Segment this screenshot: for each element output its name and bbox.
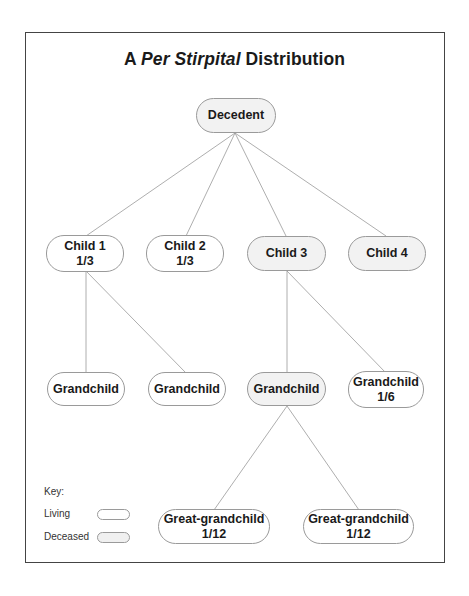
node-great-grandchild-1: Great-grandchild 1/12	[158, 509, 270, 544]
edge-grandchild3-ggc2	[287, 406, 359, 510]
node-child-3: Child 3	[247, 236, 326, 271]
node-label: Grandchild	[254, 382, 320, 397]
node-grandchild-4: Grandchild 1/6	[348, 371, 424, 408]
node-grandchild-3: Grandchild	[247, 372, 326, 406]
node-label: Grandchild	[53, 382, 119, 397]
edge-decedent-child3	[235, 133, 286, 236]
node-share: 1/6	[377, 390, 394, 405]
node-label: Grandchild	[353, 375, 419, 390]
node-decedent: Decedent	[196, 98, 276, 133]
edge-child1-grandchild2	[86, 271, 186, 373]
key-living-swatch	[97, 509, 130, 520]
node-label: Great-grandchild	[308, 512, 409, 527]
node-label: Decedent	[208, 108, 264, 123]
connector-lines	[0, 0, 469, 596]
node-label: Child 3	[266, 246, 308, 261]
key-living-label: Living	[44, 508, 70, 519]
node-share: 1/12	[346, 527, 370, 542]
node-share: 1/12	[202, 527, 226, 542]
node-label: Child 1	[64, 239, 106, 254]
node-share: 1/3	[176, 254, 193, 269]
node-label: Child 4	[366, 246, 408, 261]
edge-decedent-child4	[235, 133, 386, 236]
key-deceased-swatch	[97, 532, 130, 543]
node-label: Grandchild	[154, 382, 220, 397]
node-child-4: Child 4	[348, 236, 426, 271]
node-share: 1/3	[76, 254, 93, 269]
edge-child3-grandchild4	[287, 271, 386, 373]
node-grandchild-2: Grandchild	[148, 372, 226, 406]
node-great-grandchild-2: Great-grandchild 1/12	[303, 509, 414, 544]
edge-decedent-child2	[186, 133, 235, 236]
node-child-1: Child 1 1/3	[46, 235, 124, 272]
node-child-2: Child 2 1/3	[146, 235, 224, 272]
key-deceased-label: Deceased	[44, 531, 89, 542]
key-title: Key:	[44, 486, 64, 497]
node-grandchild-1: Grandchild	[47, 372, 125, 406]
edge-decedent-child1	[86, 133, 235, 236]
edge-grandchild3-ggc1	[214, 406, 287, 510]
node-label: Child 2	[164, 239, 206, 254]
node-label: Great-grandchild	[164, 512, 265, 527]
